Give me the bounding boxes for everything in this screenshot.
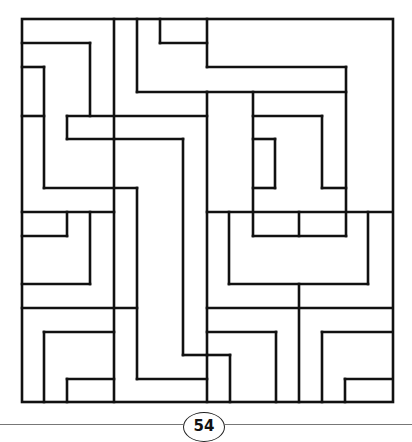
page-number: 54 — [194, 417, 215, 435]
page-number-badge: 54 — [183, 412, 225, 442]
footer-rule-right — [225, 424, 412, 425]
maze-walls — [22, 19, 392, 402]
footer-rule-left — [0, 424, 183, 425]
